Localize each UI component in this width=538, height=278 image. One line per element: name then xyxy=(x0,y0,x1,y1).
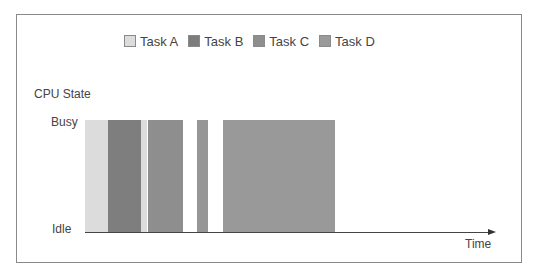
y-label-busy: Busy xyxy=(51,115,78,129)
time-axis xyxy=(85,232,490,233)
legend-label: Task B xyxy=(204,34,243,49)
legend-label: Task D xyxy=(335,34,375,49)
segment-task-d xyxy=(223,120,335,232)
arrow-right-icon xyxy=(488,229,496,235)
swatch-task-c-icon xyxy=(253,35,265,47)
segment-task-a xyxy=(141,120,147,232)
swatch-task-a-icon xyxy=(124,35,136,47)
segment-task-b xyxy=(108,120,141,232)
swatch-task-d-icon xyxy=(319,35,331,47)
legend-item-task-b: Task B xyxy=(188,34,243,49)
legend-item-task-a: Task A xyxy=(124,34,178,49)
x-axis-title: Time xyxy=(465,237,491,251)
y-axis-title: CPU State xyxy=(34,87,91,101)
segment-task-a xyxy=(85,120,108,232)
y-label-idle: Idle xyxy=(52,222,71,236)
segment-task-d xyxy=(197,120,208,232)
legend: Task A Task B Task C Task D xyxy=(124,33,385,49)
swatch-task-b-icon xyxy=(188,35,200,47)
legend-label: Task C xyxy=(269,34,309,49)
legend-label: Task A xyxy=(140,34,178,49)
legend-item-task-d: Task D xyxy=(319,34,375,49)
segment-task-c xyxy=(148,120,183,232)
legend-item-task-c: Task C xyxy=(253,34,309,49)
